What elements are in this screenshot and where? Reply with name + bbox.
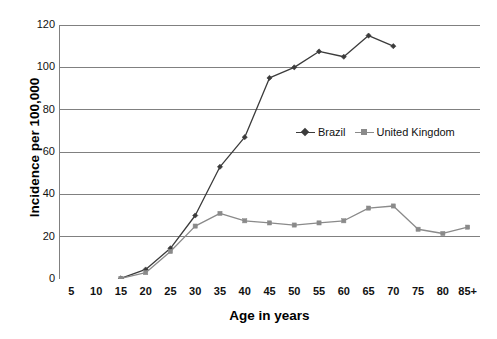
square-marker [267,221,271,225]
y-tick-label: 100 [7,61,55,72]
square-marker [218,211,222,215]
plot-area [59,25,480,279]
y-tick-label: 60 [7,146,55,157]
legend-label: United Kingdom [377,126,455,138]
y-tick-label: 80 [7,104,55,115]
diamond-marker [391,44,396,49]
line-chart: Incidence per 100,000 020406080100120 51… [0,0,497,339]
square-marker [292,223,296,227]
square-marker [355,128,374,137]
diamond-marker [267,75,272,80]
series-brazil [118,33,396,279]
diamond-marker [296,128,315,137]
square-marker [366,206,370,210]
square-marker [466,225,470,229]
gridlines [59,25,480,279]
diamond-marker [301,128,309,136]
series-line [121,36,393,279]
y-tick-label: 20 [7,231,55,242]
square-marker [119,276,123,279]
square-marker [243,219,247,223]
square-marker [391,204,395,208]
square-marker [317,221,321,225]
square-marker [416,227,420,231]
x-axis-tick-labels: 510152025303540455055606570758085+ [59,285,480,301]
square-marker [342,219,346,223]
data-series-layer [118,33,469,279]
x-axis-title: Age in years [59,308,480,323]
series-line [121,206,468,278]
series-united-kingdom [119,204,470,279]
y-tick-label: 120 [7,19,55,30]
square-marker [193,224,197,228]
legend-item-united-kingdom[interactable]: United Kingdom [355,126,455,138]
legend-label: Brazil [318,126,346,138]
plot-canvas [59,25,480,279]
square-marker [441,231,445,235]
x-tick-label: 85+ [448,285,488,297]
y-tick-label: 40 [7,188,55,199]
legend-item-brazil[interactable]: Brazil [296,126,346,138]
square-marker [144,271,148,275]
square-marker [168,249,172,253]
y-tick-label: 0 [7,273,55,284]
chart-legend: BrazilUnited Kingdom [296,126,455,138]
square-marker [361,129,367,135]
y-axis-tick-labels: 020406080100120 [0,0,55,339]
